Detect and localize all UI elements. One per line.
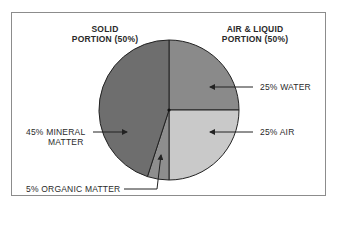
slice-water	[169, 40, 239, 110]
label-water: 25% WATER	[260, 82, 311, 92]
slice-air	[169, 110, 239, 180]
label-mineral-matter: 45% MINERAL MATTER	[26, 127, 85, 147]
label-air: 25% AIR	[260, 127, 294, 137]
label-organic-matter: 5% ORGANIC MATTER	[26, 184, 120, 194]
mineral-label-line2: MATTER	[26, 137, 85, 147]
mineral-label-line1: 45% MINERAL	[26, 127, 85, 137]
